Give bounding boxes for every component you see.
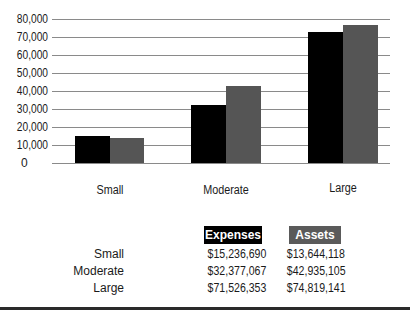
assets-value: $42,935,105 <box>287 263 343 279</box>
y-tick-70000: 70,000 <box>7 30 48 44</box>
bar-expenses-small <box>75 136 110 163</box>
table-row: Moderate $32,377,067 $42,935,105 <box>0 263 410 279</box>
bottom-divider <box>0 307 410 310</box>
x-axis-baseline <box>52 163 390 164</box>
y-tick-10000: 10,000 <box>7 138 48 152</box>
bar-assets-large <box>343 25 378 163</box>
legend-header-expenses: Expenses <box>204 226 262 244</box>
y-tick-80000: 80,000 <box>7 12 48 26</box>
x-label-moderate: Moderate <box>186 183 267 197</box>
expenses-value: $15,236,690 <box>208 246 261 262</box>
bar-assets-small <box>110 138 144 163</box>
row-label: Large <box>93 280 124 296</box>
x-label-large: Large <box>303 181 384 195</box>
x-label-small: Small <box>70 183 151 197</box>
bar-assets-moderate <box>226 86 261 163</box>
bar-expenses-moderate <box>191 105 226 163</box>
y-tick-30000: 30,000 <box>7 102 48 116</box>
assets-value: $74,819,141 <box>287 280 343 296</box>
y-tick-50000: 50,000 <box>7 66 48 80</box>
y-tick-20000: 20,000 <box>7 120 48 134</box>
legend-header-assets: Assets <box>289 226 341 244</box>
gridline <box>52 19 390 20</box>
expenses-value: $32,377,067 <box>208 263 261 279</box>
y-tick-0: 0 <box>21 156 41 170</box>
y-tick-60000: 60,000 <box>7 48 48 62</box>
row-label: Moderate <box>73 263 124 279</box>
table-row: Large $71,526,353 $74,819,141 <box>0 280 410 296</box>
expenses-value: $71,526,353 <box>208 280 261 296</box>
table-row: Small $15,236,690 $13,644,118 <box>0 246 410 262</box>
y-tick-40000: 40,000 <box>7 84 48 98</box>
assets-value: $13,644,118 <box>287 246 343 262</box>
row-label: Small <box>94 246 124 262</box>
bar-chart: 80,000 70,000 60,000 50,000 40,000 30,00… <box>0 0 410 205</box>
bar-expenses-large <box>308 32 343 163</box>
